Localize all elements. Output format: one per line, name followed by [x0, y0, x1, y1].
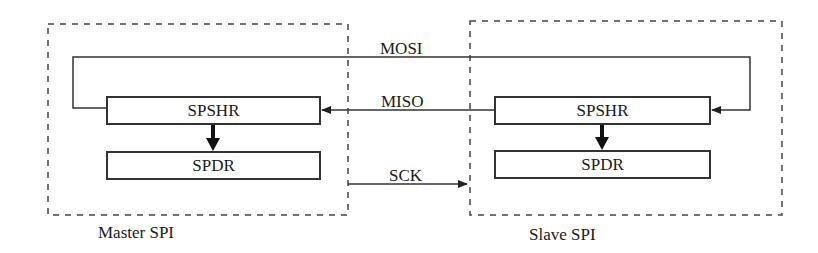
slave-transfer-arrow	[595, 124, 609, 150]
slave-spdr-label: SPDR	[581, 155, 624, 175]
miso-label: MISO	[381, 93, 424, 110]
diagram-lines	[0, 0, 818, 253]
master-spshr-label: SPSHR	[188, 101, 240, 121]
master-transfer-arrow	[206, 124, 220, 151]
sck-label: SCK	[389, 167, 422, 184]
slave-spshr-register: SPSHR	[494, 96, 711, 125]
master-spshr-register: SPSHR	[106, 96, 321, 125]
slave-spi-caption: Slave SPI	[529, 226, 596, 243]
slave-spshr-label: SPSHR	[577, 101, 629, 121]
mosi-label: MOSI	[380, 40, 423, 57]
master-spdr-label: SPDR	[192, 156, 235, 176]
master-spdr-register: SPDR	[106, 151, 321, 180]
master-spi-caption: Master SPI	[98, 224, 174, 241]
slave-spdr-register: SPDR	[494, 150, 711, 179]
